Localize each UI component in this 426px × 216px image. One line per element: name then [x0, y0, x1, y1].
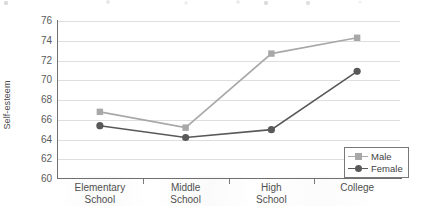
x-tick-label: ElementarySchool	[57, 182, 143, 205]
x-tick-label: MiddleSchool	[143, 182, 229, 205]
y-axis-line	[57, 20, 58, 179]
data-point-male	[182, 124, 188, 130]
x-axis-line	[57, 178, 402, 179]
line-chart-figure: Self-esteem 767472706866646260 Elementar…	[0, 0, 426, 216]
data-point-female	[268, 126, 275, 133]
legend-swatch-circle-icon	[348, 163, 368, 173]
legend-swatch-square-icon	[348, 151, 368, 161]
legend-label: Female	[371, 163, 403, 174]
data-point-female	[182, 134, 189, 141]
legend: MaleFemale	[344, 147, 409, 178]
data-point-female	[354, 68, 361, 75]
series-line-female	[100, 71, 357, 137]
y-tick-label: 76	[28, 16, 52, 26]
y-axis-title: Self-esteem	[2, 60, 12, 150]
x-tick-label: College	[314, 182, 400, 194]
data-point-male	[268, 50, 274, 56]
data-point-male	[97, 109, 103, 115]
series-line-male	[100, 38, 357, 128]
y-tick-label: 74	[28, 36, 52, 46]
y-tick-label: 68	[28, 95, 52, 105]
x-tick-label: HighSchool	[229, 182, 315, 205]
y-axis-tick-labels: 767472706866646260	[26, 0, 52, 216]
legend-item-female[interactable]: Female	[348, 162, 403, 174]
y-tick-label: 60	[28, 174, 52, 184]
scan-noise-top	[0, 0, 426, 9]
y-tick-label: 70	[28, 75, 52, 85]
y-tick-label: 72	[28, 56, 52, 66]
y-tick-label: 66	[28, 115, 52, 125]
data-point-male	[354, 35, 360, 41]
y-tick-label: 62	[28, 154, 52, 164]
legend-item-male[interactable]: Male	[348, 150, 403, 162]
y-tick-label: 64	[28, 135, 52, 145]
data-point-female	[96, 122, 103, 129]
legend-label: Male	[371, 151, 392, 162]
